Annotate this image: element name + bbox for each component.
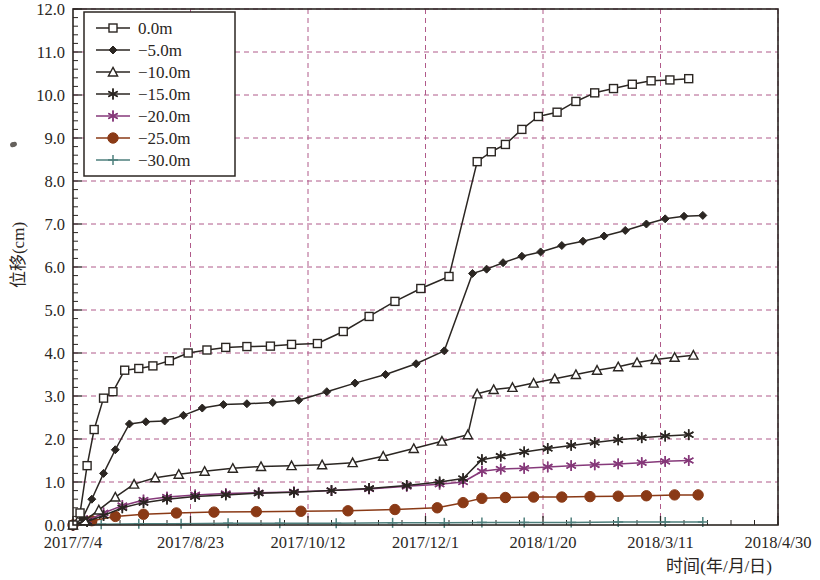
data-point-marker	[171, 508, 181, 518]
y-tick-label: 3.0	[44, 387, 65, 406]
y-tick-label: 7.0	[44, 215, 65, 234]
data-point-marker	[296, 506, 306, 516]
x-tick-label: 2018/4/30	[745, 533, 812, 552]
data-point-marker	[165, 357, 173, 365]
data-point-marker	[669, 490, 679, 500]
data-point-marker	[445, 272, 453, 280]
data-point-marker	[432, 503, 442, 513]
data-point-marker	[149, 362, 157, 370]
data-point-marker	[477, 493, 487, 503]
y-tick-label: 4.0	[44, 344, 65, 363]
data-point-marker	[365, 312, 373, 320]
data-point-marker	[585, 491, 595, 501]
data-point-marker	[203, 346, 211, 354]
data-point-marker	[184, 349, 192, 357]
data-point-marker	[666, 76, 674, 84]
legend-label: −30.0m	[138, 151, 191, 170]
data-point-marker	[458, 497, 468, 507]
legend-label: −5.0m	[138, 41, 182, 60]
data-point-marker	[417, 285, 425, 293]
x-tick-label: 2018/3/11	[627, 533, 693, 552]
data-point-marker	[591, 89, 599, 97]
x-axis-tick-labels: 2017/7/42017/8/232017/10/122017/12/12018…	[44, 533, 812, 552]
data-point-marker	[76, 509, 84, 517]
y-tick-label: 2.0	[44, 430, 65, 449]
data-point-marker	[473, 158, 481, 166]
data-point-marker	[251, 506, 261, 516]
data-point-marker	[693, 490, 703, 500]
data-point-marker	[628, 80, 636, 88]
data-point-marker	[534, 113, 542, 121]
legend-label: −20.0m	[138, 107, 191, 126]
legend-label: 0.0m	[138, 19, 172, 38]
data-point-marker	[391, 297, 399, 305]
data-point-marker	[553, 108, 561, 116]
displacement-time-chart: 0.01.02.03.04.05.06.07.08.09.010.011.012…	[0, 0, 820, 580]
data-point-marker	[266, 342, 274, 350]
y-tick-label: 1.0	[44, 473, 65, 492]
data-point-marker	[222, 343, 230, 351]
y-axis-title: 位移(cm)	[9, 222, 28, 288]
legend-label: −10.0m	[138, 63, 191, 82]
data-point-marker	[500, 492, 510, 502]
y-tick-label: 11.0	[37, 43, 65, 62]
x-tick-label: 2017/7/4	[44, 533, 103, 552]
data-point-marker	[138, 509, 148, 519]
x-tick-label: 2018/1/20	[510, 533, 577, 552]
data-point-marker	[339, 328, 347, 336]
data-point-marker	[209, 507, 219, 517]
legend: 0.0m−5.0m−10.0m−15.0m−20.0m−25.0m−30.0m	[84, 12, 235, 176]
y-axis-tick-labels: 0.01.02.03.04.05.06.07.08.09.010.011.012…	[36, 0, 65, 535]
data-point-marker	[501, 140, 509, 148]
data-point-marker	[288, 340, 296, 348]
x-tick-label: 2017/10/12	[270, 533, 345, 552]
data-point-marker	[557, 492, 567, 502]
data-point-marker	[641, 491, 651, 501]
data-point-marker	[518, 125, 526, 133]
y-tick-label: 8.0	[44, 172, 65, 191]
data-point-marker	[135, 364, 143, 372]
legend-label: −25.0m	[138, 129, 191, 148]
data-point-marker	[121, 366, 129, 374]
data-point-marker	[343, 506, 353, 516]
data-point-marker	[528, 492, 538, 502]
data-point-marker	[610, 85, 618, 93]
y-tick-label: 6.0	[44, 258, 65, 277]
y-tick-label: 5.0	[44, 301, 65, 320]
data-point-marker	[109, 388, 117, 396]
data-point-marker	[90, 426, 98, 434]
x-tick-label: 2017/12/1	[392, 533, 459, 552]
data-point-marker	[243, 343, 251, 351]
y-tick-label: 10.0	[36, 86, 65, 105]
data-point-marker	[572, 97, 580, 105]
data-point-marker	[313, 340, 321, 348]
data-point-marker	[647, 77, 655, 85]
legend-label: −15.0m	[138, 85, 191, 104]
data-point-marker	[109, 24, 117, 32]
x-tick-label: 2017/8/23	[157, 533, 224, 552]
x-axis-title: 时间(年/月/日)	[666, 557, 772, 576]
data-point-marker	[100, 394, 108, 402]
data-point-marker	[613, 491, 623, 501]
data-point-marker	[108, 133, 118, 143]
data-point-marker	[685, 75, 693, 83]
data-point-marker	[487, 148, 495, 156]
chart-canvas: 0.01.02.03.04.05.06.07.08.09.010.011.012…	[0, 0, 820, 580]
y-tick-label: 9.0	[44, 129, 65, 148]
y-tick-label: 12.0	[36, 0, 65, 19]
data-point-marker	[390, 504, 400, 514]
data-point-marker	[83, 462, 91, 470]
